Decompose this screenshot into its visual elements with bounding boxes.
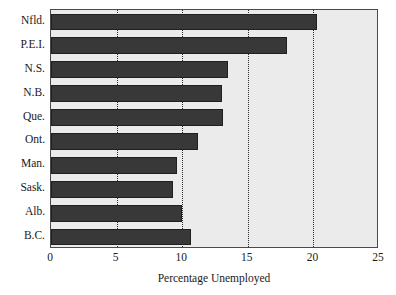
y-axis-tick-label: N.S.	[0, 63, 45, 75]
y-axis-tick-label: Man.	[0, 158, 45, 170]
x-axis-tick-label: 5	[113, 252, 119, 264]
bar-slot	[51, 85, 377, 102]
bar-slot	[51, 229, 377, 246]
y-axis-tick-label: Sask.	[0, 182, 45, 194]
y-axis-tick-label: B.C.	[0, 230, 45, 242]
bar-slot	[51, 157, 377, 174]
y-axis-tick-label: Ont.	[0, 134, 45, 146]
plot-area	[50, 9, 378, 248]
bar-slot	[51, 37, 377, 54]
bar-slot	[51, 14, 377, 31]
y-axis-tick-label: Alb.	[0, 206, 45, 218]
bar-slot	[51, 205, 377, 222]
bar	[51, 157, 177, 174]
bar	[51, 205, 182, 222]
y-axis-tick-label: P.E.I.	[0, 39, 45, 51]
bar	[51, 14, 317, 31]
bar	[51, 181, 173, 198]
y-axis-tick-label: Que.	[0, 111, 45, 123]
x-axis-tick-labels: 0510152025	[0, 252, 396, 268]
x-axis-tick-label: 0	[47, 252, 53, 264]
bar	[51, 37, 287, 54]
bar	[51, 229, 191, 246]
y-axis-labels: Nfld.P.E.I.N.S.N.B.Que.Ont.Man.Sask.Alb.…	[0, 9, 45, 248]
bar	[51, 133, 198, 150]
bar	[51, 61, 228, 78]
x-axis-tick-label: 10	[175, 252, 187, 264]
bar-slot	[51, 181, 377, 198]
y-axis-tick-label: N.B.	[0, 87, 45, 99]
x-axis-tick-label: 20	[307, 252, 319, 264]
bar-slot	[51, 109, 377, 126]
bar-slot	[51, 61, 377, 78]
bar-slot	[51, 133, 377, 150]
bars	[51, 10, 377, 247]
bar	[51, 109, 223, 126]
x-axis-title: Percentage Unemployed	[50, 272, 378, 284]
x-axis-tick-label: 25	[372, 252, 384, 264]
y-axis-tick-label: Nfld.	[0, 15, 45, 27]
bar-chart: Nfld.P.E.I.N.S.N.B.Que.Ont.Man.Sask.Alb.…	[0, 0, 396, 295]
bar	[51, 85, 222, 102]
x-axis-tick-label: 15	[241, 252, 253, 264]
